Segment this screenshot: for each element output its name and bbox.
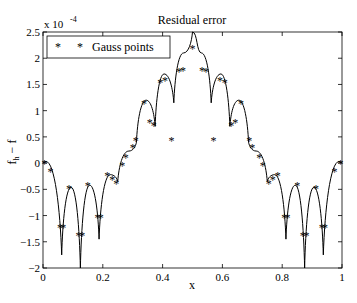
svg-text:−1: −1 — [28, 210, 40, 222]
legend-label: Gauss points — [92, 40, 154, 54]
svg-text:*: * — [98, 211, 104, 225]
svg-text:*: * — [260, 159, 266, 173]
legend: * * Gauss points — [47, 36, 170, 58]
svg-text:*: * — [47, 165, 53, 179]
legend-marker: * — [55, 40, 61, 54]
gauss-point-markers: ****************************************… — [41, 42, 343, 244]
svg-text:0.5: 0.5 — [26, 131, 40, 143]
svg-text:0.6: 0.6 — [216, 271, 230, 283]
svg-text:*: * — [203, 65, 209, 79]
svg-text:2.5: 2.5 — [26, 26, 40, 38]
svg-text:2: 2 — [35, 52, 41, 64]
svg-text:1: 1 — [35, 105, 41, 117]
x-axis-label: x — [189, 278, 195, 292]
svg-text:0.8: 0.8 — [275, 271, 289, 283]
svg-text:*: * — [190, 42, 196, 56]
svg-text:*: * — [141, 97, 147, 111]
svg-text:*: * — [162, 74, 168, 88]
svg-text:0: 0 — [35, 157, 41, 169]
svg-text:*: * — [60, 221, 66, 235]
svg-text:x 10: x 10 — [44, 18, 64, 30]
svg-text:*: * — [294, 179, 300, 193]
chart-svg: Residual error x 10 -4 00.20.40.60.81 −2… — [0, 0, 357, 303]
svg-text:fh − f: fh − f — [5, 140, 21, 165]
y-axis-label: fh − f — [5, 140, 21, 165]
x-axis-ticks: 00.20.40.60.81 — [40, 32, 345, 283]
residual-error-figure: Residual error x 10 -4 00.20.40.60.81 −2… — [0, 0, 357, 303]
residual-curve — [43, 32, 342, 268]
svg-text:*: * — [249, 141, 255, 155]
svg-text:*: * — [338, 157, 344, 171]
svg-text:*: * — [210, 134, 216, 148]
svg-text:−0.5: −0.5 — [20, 183, 40, 195]
svg-text:*: * — [285, 211, 291, 225]
svg-text:*: * — [313, 182, 319, 196]
svg-text:*: * — [169, 134, 175, 148]
svg-text:*: * — [275, 169, 281, 183]
svg-text:*: * — [85, 179, 91, 193]
svg-text:*: * — [79, 229, 85, 243]
svg-text:*: * — [123, 151, 129, 165]
svg-text:*: * — [113, 177, 119, 191]
svg-text:*: * — [180, 64, 186, 78]
y-multiplier-label: x 10 -4 — [44, 15, 77, 30]
svg-text:0: 0 — [40, 271, 46, 283]
legend-marker: * — [77, 40, 83, 54]
axes-box — [43, 32, 342, 268]
svg-text:*: * — [66, 182, 72, 196]
svg-text:−2: −2 — [28, 262, 40, 274]
svg-text:*: * — [232, 116, 238, 130]
svg-text:*: * — [222, 76, 228, 90]
svg-text:1: 1 — [339, 271, 345, 283]
svg-text:-4: -4 — [70, 15, 77, 24]
chart-title: Residual error — [158, 13, 226, 27]
svg-text:0.4: 0.4 — [156, 271, 170, 283]
svg-text:*: * — [151, 119, 157, 133]
svg-text:0.2: 0.2 — [96, 271, 110, 283]
svg-text:−1.5: −1.5 — [20, 236, 40, 248]
svg-text:*: * — [238, 97, 244, 111]
svg-text:*: * — [133, 134, 139, 148]
svg-text:*: * — [303, 229, 309, 243]
svg-text:1.5: 1.5 — [26, 78, 40, 90]
svg-text:*: * — [322, 221, 328, 235]
